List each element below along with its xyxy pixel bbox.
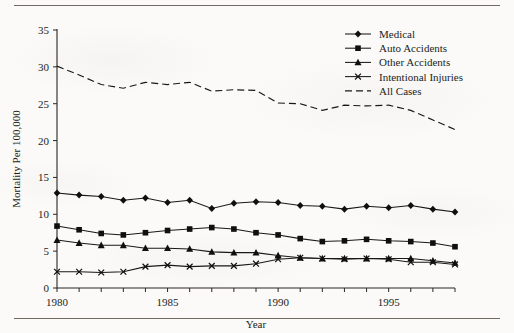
marker-diamond xyxy=(275,199,282,206)
legend-item-all-cases: All Cases xyxy=(345,85,421,97)
marker-diamond xyxy=(98,193,105,200)
marker-square xyxy=(408,239,414,245)
marker-square xyxy=(386,238,392,244)
x-tick-label: 1995 xyxy=(378,296,401,308)
y-tick-label: 30 xyxy=(38,61,50,73)
legend-label: Medical xyxy=(379,28,415,40)
marker-square xyxy=(342,238,348,244)
x-tick-label: 1980 xyxy=(46,296,69,308)
marker-square xyxy=(253,230,259,236)
marker-square xyxy=(165,228,171,234)
series-medical xyxy=(54,189,459,215)
marker-square xyxy=(364,237,370,243)
chart-series xyxy=(54,66,459,275)
marker-square xyxy=(231,226,237,232)
marker-triangle xyxy=(54,236,61,243)
marker-diamond xyxy=(407,202,414,209)
x-tick-label: 1985 xyxy=(157,296,180,308)
marker-diamond xyxy=(142,195,149,202)
marker-square xyxy=(297,236,303,242)
x-tick-label: 1990 xyxy=(267,296,290,308)
marker-diamond xyxy=(363,203,370,210)
y-tick-label: 15 xyxy=(38,171,50,183)
marker-diamond xyxy=(253,198,260,205)
marker-diamond xyxy=(120,197,127,204)
legend-label: Other Accidents xyxy=(379,56,450,68)
y-axis-title: Mortality Per 100,000 xyxy=(10,110,22,208)
marker-diamond xyxy=(164,199,171,206)
marker-square xyxy=(187,226,193,232)
marker-diamond xyxy=(452,209,459,216)
marker-diamond xyxy=(385,204,392,211)
legend-item-other-accidents: Other Accidents xyxy=(345,56,450,68)
marker-diamond xyxy=(76,192,83,199)
marker-diamond xyxy=(186,197,193,204)
marker-square xyxy=(209,225,215,231)
legend-item-auto-accidents: Auto Accidents xyxy=(345,42,447,54)
legend-item-medical: Medical xyxy=(345,28,415,40)
marker-square xyxy=(355,45,361,51)
marker-square xyxy=(143,230,149,236)
marker-square xyxy=(98,231,104,237)
marker-diamond xyxy=(297,202,304,209)
series-intentional-injuries xyxy=(54,255,458,276)
marker-diamond xyxy=(208,205,215,212)
y-tick-label: 0 xyxy=(44,282,50,294)
marker-square xyxy=(275,232,281,238)
legend-label: Auto Accidents xyxy=(379,42,447,54)
marker-square xyxy=(320,239,326,245)
marker-square xyxy=(452,244,458,250)
marker-diamond xyxy=(231,200,238,207)
chart-legend: MedicalAuto AccidentsOther AccidentsInte… xyxy=(345,28,463,97)
marker-diamond xyxy=(355,31,362,38)
mortality-line-chart: 051015202530351980198519901995 MedicalAu… xyxy=(0,0,514,333)
marker-square xyxy=(76,227,82,233)
marker-square xyxy=(121,232,127,238)
y-tick-label: 10 xyxy=(38,208,50,220)
x-axis-title: Year xyxy=(246,318,267,330)
legend-item-intentional-injuries: Intentional Injuries xyxy=(345,71,463,83)
marker-square xyxy=(430,240,436,246)
marker-diamond xyxy=(430,206,437,213)
legend-label: Intentional Injuries xyxy=(379,71,463,83)
y-tick-label: 5 xyxy=(44,245,50,257)
chart-svg: 051015202530351980198519901995 MedicalAu… xyxy=(0,0,514,333)
y-tick-label: 25 xyxy=(38,98,50,110)
marker-diamond xyxy=(319,203,326,210)
legend-label: All Cases xyxy=(379,85,421,97)
marker-diamond xyxy=(341,206,348,213)
y-tick-label: 35 xyxy=(38,24,50,36)
y-tick-label: 20 xyxy=(38,135,50,147)
marker-diamond xyxy=(54,189,61,196)
marker-square xyxy=(54,223,60,229)
